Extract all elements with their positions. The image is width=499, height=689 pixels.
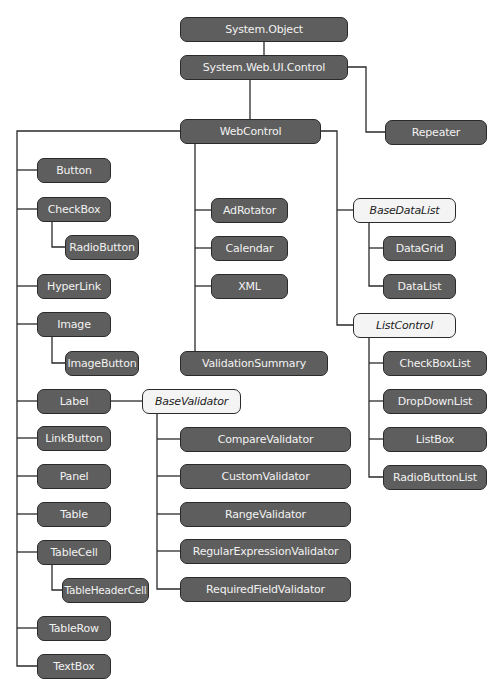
node-checkbox: CheckBox	[37, 197, 111, 222]
node-webcontrol: WebControl	[180, 119, 321, 144]
node-basedatalist: BaseDataList	[353, 198, 456, 223]
node-listbox: ListBox	[383, 427, 487, 452]
node-panel: Panel	[37, 464, 111, 489]
node-calendar: Calendar	[211, 236, 288, 261]
node-xml: XML	[211, 274, 288, 299]
class-hierarchy-diagram: System.Object System.Web.UI.Control Repe…	[0, 0, 499, 689]
node-customvalidator: CustomValidator	[180, 464, 351, 489]
node-tablecell: TableCell	[37, 540, 111, 565]
node-rangevalidator: RangeValidator	[180, 502, 351, 527]
node-tablerow: TableRow	[37, 616, 111, 641]
node-radiobuttonlist: RadioButtonList	[383, 465, 487, 490]
node-repeater: Repeater	[385, 120, 487, 145]
node-listcontrol: ListControl	[353, 313, 456, 338]
node-datalist: DataList	[383, 274, 456, 299]
node-system-web-ui-control: System.Web.UI.Control	[180, 55, 348, 80]
node-tableheadercell: TableHeaderCell	[62, 578, 149, 603]
node-regularexpressionvalidator: RegularExpressionValidator	[180, 539, 351, 564]
node-textbox: TextBox	[37, 654, 111, 679]
node-comparevalidator: CompareValidator	[180, 427, 351, 452]
node-checkboxlist: CheckBoxList	[383, 351, 487, 376]
node-datagrid: DataGrid	[383, 236, 456, 261]
node-image: Image	[37, 312, 111, 337]
node-system-object: System.Object	[180, 17, 348, 42]
node-hyperlink: HyperLink	[37, 274, 111, 299]
node-requiredfieldvalidator: RequiredFieldValidator	[180, 577, 351, 602]
node-validationsummary: ValidationSummary	[180, 351, 328, 376]
node-label: Label	[37, 389, 111, 414]
node-adrotator: AdRotator	[211, 198, 288, 223]
node-dropdownlist: DropDownList	[383, 389, 487, 414]
node-button: Button	[37, 158, 111, 183]
node-linkbutton: LinkButton	[37, 426, 111, 451]
node-imagebutton: ImageButton	[65, 351, 139, 376]
node-radiobutton: RadioButton	[65, 235, 139, 260]
node-basevalidator: BaseValidator	[142, 389, 241, 414]
node-table: Table	[37, 502, 111, 527]
